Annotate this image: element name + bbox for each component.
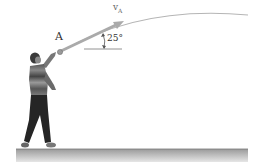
point-label: A <box>55 30 63 43</box>
ground <box>16 149 248 162</box>
velocity-label: vA <box>113 2 122 14</box>
velocity-subscript: A <box>118 7 122 14</box>
ball <box>57 49 62 54</box>
angle-label: 25° <box>107 33 123 43</box>
trajectory-curve <box>60 13 248 52</box>
projectile-diagram: A vA 25° <box>0 0 265 165</box>
thrower-figure <box>21 52 56 148</box>
diagram-graphics <box>0 0 265 165</box>
